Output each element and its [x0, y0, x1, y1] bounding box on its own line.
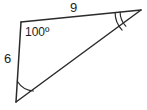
side-length-label-left: 6: [4, 52, 11, 65]
triangle-side-diagonal: [16, 10, 141, 102]
triangle-figure: [0, 0, 147, 110]
angle-arc-bottom-left: [17, 81, 33, 91]
side-length-label-top: 9: [70, 1, 77, 14]
triangle-side-top: [21, 10, 141, 22]
triangle-side-left: [16, 22, 21, 102]
angle-measure-label-top-left: 100º: [25, 26, 49, 38]
geometry-diagram: 9 6 100º: [0, 0, 147, 110]
